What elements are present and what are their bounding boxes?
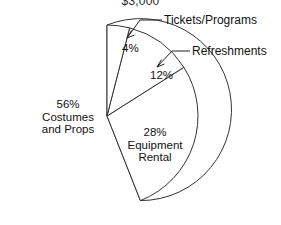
slice-name-equipment-line2: Rental — [112, 151, 198, 164]
slice-value-refreshments: 12% — [150, 69, 173, 82]
slice-callout-refreshments: Refreshments — [192, 45, 267, 58]
slice-label-equipment-rental: 28% Equipment Rental — [112, 126, 198, 164]
slice-label-costumes-and-props: 56% Costumes and Props — [22, 98, 114, 136]
slice-value-costumes-and-props: 56% — [22, 98, 114, 111]
slice-name-equipment-line1: Equipment — [112, 139, 198, 152]
slice-callout-tickets-programs: Tickets/Programs — [164, 14, 257, 27]
slice-value-tickets-programs: 4% — [122, 42, 139, 55]
pie-chart: $3,000 56% Costumes and Props 28% Equipm… — [0, 0, 281, 225]
slice-name-costumes-line2: and Props — [22, 123, 114, 136]
slice-name-costumes-line1: Costumes — [22, 111, 114, 124]
slice-value-equipment-rental: 28% — [112, 126, 198, 139]
